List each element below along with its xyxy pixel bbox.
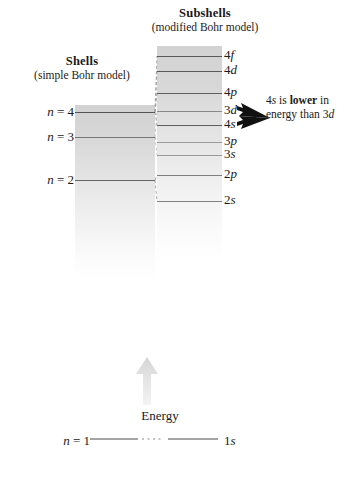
shells-panel-subtitle: (simple Bohr model) — [6, 69, 158, 81]
energy-arrow-icon — [130, 355, 164, 405]
subshell-level-line-4p — [157, 93, 222, 94]
annotation-emphasis: lower — [290, 94, 317, 106]
subshell-label-4s: 4s — [224, 116, 236, 132]
subshell-level-line-4d — [157, 71, 222, 72]
energy-axis-label: Energy — [118, 408, 202, 424]
subshell-level-line-3p — [157, 142, 222, 143]
subshell-level-line-2p — [157, 175, 222, 176]
shells-panel-title: Shells — [12, 54, 152, 69]
subshell-level-line-4f — [157, 56, 222, 57]
subshell-label-4f: 4f — [224, 47, 234, 63]
shell-label-n4: n = 4 — [22, 104, 74, 120]
subshells-gradient-band — [157, 46, 222, 261]
subshell-label-4p: 4p — [224, 84, 237, 100]
subshell-label-2p: 2p — [224, 166, 237, 182]
subshell-label-4d: 4d — [224, 62, 237, 78]
subshell-level-line-3s — [157, 155, 222, 156]
shell-level-line-n3 — [75, 137, 155, 138]
subshells-panel-subtitle: (modified Bohr model) — [120, 21, 290, 33]
subshell-level-line-2s — [157, 201, 222, 202]
ground-state-n-label: n = 1 — [34, 433, 90, 449]
shell-label-n3: n = 3 — [22, 129, 74, 145]
shells-gradient-band — [75, 105, 155, 280]
ground-state-subshell-label: 1s — [224, 433, 236, 449]
subshell-level-line-4s — [157, 125, 222, 126]
annotation-part1: 4s is — [266, 94, 290, 106]
shell-level-line-n2 — [75, 180, 155, 181]
subshell-label-3s: 3s — [224, 146, 236, 162]
annotation-callout: 4s is lower in energy than 3d — [266, 93, 362, 121]
shell-level-line-n4 — [75, 112, 155, 113]
subshell-level-line-3d — [157, 111, 222, 112]
orbital-energy-diagram: Subshells (modified Bohr model) Shells (… — [0, 0, 364, 484]
subshell-label-2s: 2s — [224, 192, 236, 208]
ground-state-connector — [90, 434, 222, 444]
subshells-panel-title: Subshells — [130, 6, 280, 21]
shell-label-n2: n = 2 — [22, 172, 74, 188]
